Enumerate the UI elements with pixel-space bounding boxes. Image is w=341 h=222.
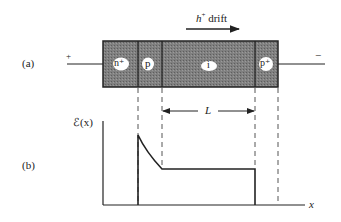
- region-n-plus-label: n⁺: [114, 58, 124, 68]
- device-body: [103, 41, 278, 87]
- field-profile-curve: [138, 135, 255, 205]
- length-label: L: [205, 105, 211, 116]
- y-axis-label: ℰ(x): [73, 117, 93, 128]
- drift-text: drift: [205, 12, 227, 24]
- drift-label: h+ drift: [196, 12, 227, 24]
- panel-a-label: (a): [22, 58, 34, 69]
- panel-b-label: (b): [22, 160, 35, 171]
- region-p-label: p: [145, 58, 151, 69]
- terminal-plus: +: [66, 52, 71, 61]
- region-p-plus-label: p⁺: [260, 58, 270, 68]
- diagram-canvas: [0, 0, 341, 222]
- region-i-label: i: [207, 60, 210, 70]
- terminal-minus: −: [315, 50, 321, 61]
- x-axis-label: x: [309, 199, 314, 210]
- impatt-diode-figure: (a) (b) h+ drift + − n⁺ p i p⁺ L ℰ(x) x: [0, 0, 341, 222]
